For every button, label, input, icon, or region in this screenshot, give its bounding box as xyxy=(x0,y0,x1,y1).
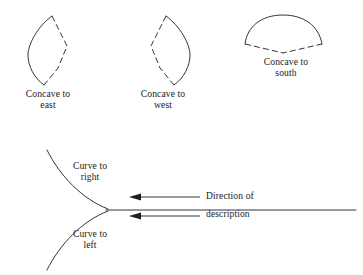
label-direction-of: Direction of xyxy=(206,190,254,201)
caption-concave-south: Concave to south xyxy=(240,56,332,79)
shape-concave-west xyxy=(151,16,190,85)
shape-concave-south xyxy=(245,15,322,53)
concave-east-dashed-edge xyxy=(44,16,67,85)
label-curve-to-left: Curve to left xyxy=(64,228,116,251)
caption-concave-west: Concave to west xyxy=(117,88,209,111)
shape-concave-east xyxy=(28,16,67,85)
arrow-direction-of xyxy=(129,193,200,200)
concave-south-dashed-edge xyxy=(245,44,322,53)
figure-root: Concave to east Concave to west Concave … xyxy=(0,0,363,275)
concave-west-solid-arc xyxy=(166,16,190,85)
concave-west-dashed-edge xyxy=(151,16,174,85)
label-curve-to-right: Curve to right xyxy=(64,160,116,183)
figure-canvas xyxy=(0,0,363,275)
arrow-description xyxy=(129,212,200,219)
caption-concave-east: Concave to east xyxy=(2,88,94,111)
label-description: description xyxy=(206,208,250,219)
concave-south-solid-arc xyxy=(245,15,322,44)
concave-east-solid-arc xyxy=(28,16,52,85)
